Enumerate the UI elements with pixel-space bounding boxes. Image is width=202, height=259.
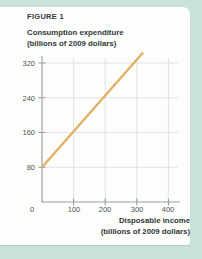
x-tick-label-0: 0 — [20, 205, 44, 214]
x-tick-label-200: 200 — [93, 205, 117, 214]
y-tick-label-240: 240 — [8, 94, 35, 103]
x-tick-label-100: 100 — [62, 205, 86, 214]
x-tick-label-300: 300 — [125, 205, 149, 214]
consumption-function-line — [42, 53, 143, 168]
y-tick-label-160: 160 — [8, 128, 35, 137]
x-axis-title-line2: (billions of 2009 dollars) — [101, 227, 190, 236]
y-tick-label-80: 80 — [8, 163, 35, 172]
y-tick-label-320: 320 — [8, 59, 35, 68]
x-tick-label-400: 400 — [156, 205, 180, 214]
x-axis-title-line1: Disposable income — [119, 216, 190, 225]
textbook-figure-page: FIGURE 1 Consumption expenditure (billio… — [0, 0, 202, 259]
